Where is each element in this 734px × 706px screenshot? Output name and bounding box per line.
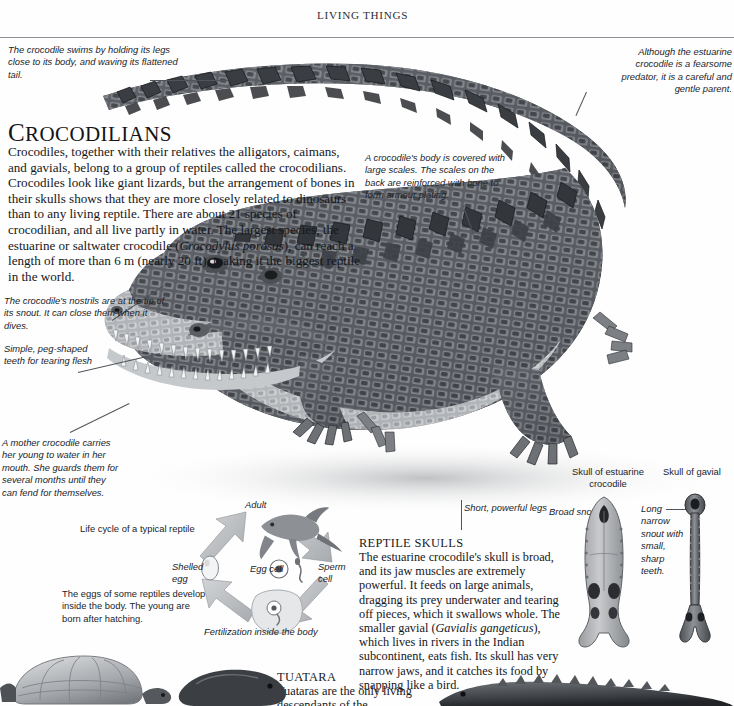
callout-legs: Short, powerful legs	[464, 502, 554, 514]
leader-line-legs	[461, 500, 462, 530]
lizard-illustration	[176, 662, 288, 706]
life-cycle-label-egg-cell: Egg cell	[250, 563, 283, 575]
callout-nostrils: The crocodile's nostrils are at the tip …	[4, 295, 169, 332]
species-name-crocodylus-porosus: Crocodylus porosus	[180, 238, 284, 253]
callout-mother-crocodile: A mother crocodile carries her young to …	[2, 437, 122, 499]
intro-paragraph: Crocodiles, together with their relative…	[8, 144, 360, 284]
reptile-skulls-paragraph: The estuarine crocodile's skull is broad…	[359, 550, 564, 692]
callout-scales: A crocodile's body is covered with large…	[365, 152, 515, 202]
page-title: CROCODILIANS	[8, 119, 172, 147]
life-cycle-label-adult: Adult	[245, 499, 266, 511]
tuatara-illustration	[437, 672, 734, 706]
life-cycle-label-shelled-egg: Shelled egg	[172, 561, 216, 586]
life-cycle-label-sperm-cell: Sperm cell	[318, 561, 356, 586]
tortoise-illustration	[0, 648, 175, 706]
callout-teeth: Simple, peg-shaped teeth for tearing fle…	[4, 343, 99, 368]
skull-label-gavial: Skull of gavial	[649, 466, 734, 478]
tuatara-paragraph: Tuataras are the only living descendants…	[277, 684, 437, 706]
reptile-skulls-heading: REPTILE SKULLS	[359, 536, 463, 551]
page-title-rest: ROCODILIANS	[25, 122, 172, 146]
encyclopedia-page: LIVING THINGS	[0, 0, 734, 706]
species-name-gavialis-gangeticus: Gavialis gangeticus	[435, 621, 533, 635]
callout-gentle-parent: Although the estuarine crocodile is a fe…	[604, 46, 732, 96]
estuarine-crocodile-skull-illustration	[573, 495, 635, 655]
callout-swimming: The crocodile swims by holding its legs …	[8, 44, 194, 81]
page-title-initial: C	[8, 119, 25, 146]
skull-label-estuarine-crocodile: Skull of estuarine crocodile	[561, 466, 655, 491]
life-cycle-caption: Life cycle of a typical reptile	[80, 523, 195, 535]
life-cycle-label-fertilization: Fertilization inside the body	[204, 626, 318, 638]
gavial-skull-illustration	[678, 493, 712, 655]
